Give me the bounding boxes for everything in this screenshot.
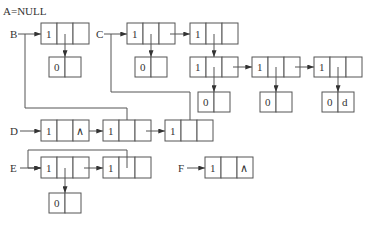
svg-text:1: 1	[170, 125, 176, 137]
svg-text:0: 0	[54, 61, 60, 73]
node-f1: 1 ∧	[205, 157, 253, 178]
svg-text:1: 1	[210, 162, 216, 174]
svg-text:1: 1	[195, 28, 201, 40]
svg-text:0: 0	[265, 96, 271, 108]
node-d3: 1	[165, 120, 213, 141]
label-b: B	[10, 28, 17, 40]
label-c: C	[96, 28, 103, 40]
node-c2-r1-sub: 0	[198, 92, 230, 112]
svg-text:1: 1	[108, 162, 114, 174]
svg-text:1: 1	[46, 28, 52, 40]
svg-text:∧: ∧	[76, 125, 84, 137]
svg-text:0: 0	[203, 96, 209, 108]
node-c1-sub: 0	[135, 57, 167, 77]
svg-text:1: 1	[257, 61, 263, 73]
svg-text:0: 0	[54, 197, 60, 209]
node-e1-sub: 0	[49, 193, 81, 213]
svg-text:d: d	[342, 96, 348, 108]
node-c2-r2-sub: 0	[260, 92, 292, 112]
svg-text:0: 0	[140, 61, 146, 73]
label-e: E	[10, 162, 17, 174]
svg-text:1: 1	[46, 162, 52, 174]
link-b-to-d2	[25, 34, 127, 130]
linked-list-diagram: A=NULL B 1 0 C 1 0 1	[0, 0, 365, 226]
node-b1-sub: 0	[49, 57, 81, 77]
label-f: F	[178, 162, 184, 174]
svg-text:1: 1	[108, 125, 114, 137]
svg-text:1: 1	[132, 28, 138, 40]
svg-text:∧: ∧	[240, 162, 248, 174]
label-d: D	[10, 125, 18, 137]
svg-text:1: 1	[319, 61, 325, 73]
svg-text:1: 1	[46, 125, 52, 137]
svg-text:0: 0	[327, 96, 333, 108]
node-d1: 1 ∧	[41, 120, 89, 141]
svg-text:1: 1	[195, 61, 201, 73]
node-c2-r3-sub: 0 d	[322, 92, 354, 112]
node-d2: 1	[103, 120, 151, 141]
title-a-null: A=NULL	[3, 5, 47, 17]
